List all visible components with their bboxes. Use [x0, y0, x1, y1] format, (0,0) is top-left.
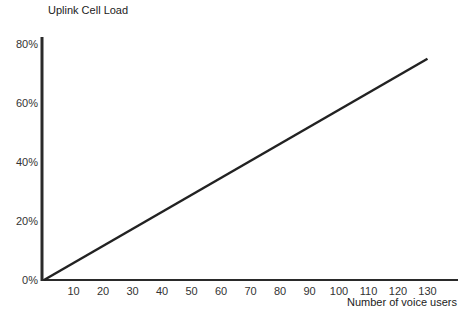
x-tick-label: 60	[215, 285, 227, 297]
y-tick-label: 20%	[16, 215, 38, 227]
x-tick-label: 50	[185, 285, 197, 297]
line-chart: Uplink Cell Load Number of voice users 0…	[0, 0, 468, 319]
x-tick-label: 130	[418, 285, 436, 297]
x-tick-label: 90	[303, 285, 315, 297]
x-tick-label: 10	[67, 285, 79, 297]
y-tick-label: 60%	[16, 97, 38, 109]
y-tick-label: 40%	[16, 156, 38, 168]
x-tick-label: 70	[244, 285, 256, 297]
y-tick-label: 0%	[22, 274, 38, 286]
x-tick-label: 80	[274, 285, 286, 297]
x-tick-label: 100	[330, 285, 348, 297]
x-tick-label: 40	[156, 285, 168, 297]
x-tick-label: 20	[97, 285, 109, 297]
series-line	[44, 59, 428, 280]
y-tick-label: 80%	[16, 38, 38, 50]
x-tick-label: 120	[389, 285, 407, 297]
x-tick-label: 110	[360, 285, 378, 297]
x-axis-title: Number of voice users	[347, 296, 458, 308]
y-axis-title: Uplink Cell Load	[48, 4, 128, 16]
x-tick-label: 30	[126, 285, 138, 297]
